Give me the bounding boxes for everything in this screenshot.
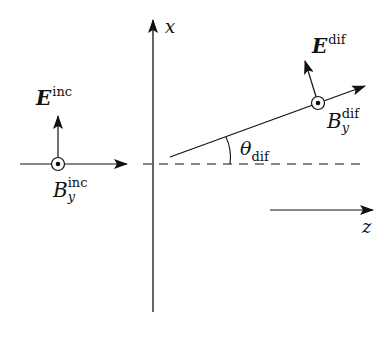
- x-axis-label: x: [165, 18, 175, 36]
- theta-subscript: dif: [251, 149, 268, 164]
- diffracted-e-label: Edif: [312, 36, 346, 56]
- incident-b-symbol: B: [53, 178, 68, 202]
- diffracted-b-label: Bdify: [327, 111, 364, 131]
- diffracted-b-symbol: B: [327, 109, 342, 133]
- diffracted-e-symbol: E: [312, 34, 327, 58]
- incident-e-superscript: inc: [52, 84, 72, 99]
- incident-b-subscript: y: [68, 190, 75, 203]
- incident-e-label: Einc: [36, 88, 72, 108]
- incident-b-superscript: inc: [68, 176, 88, 189]
- theta-symbol: θ: [240, 137, 251, 159]
- z-axis-label: z: [362, 218, 371, 236]
- theta-angle-arc: [226, 137, 231, 164]
- diffracted-b-subscript: y: [342, 121, 349, 134]
- diffracted-b-superscript: dif: [342, 107, 359, 120]
- diffracted-e-superscript: dif: [328, 32, 345, 47]
- incident-b-label: Bincy: [53, 180, 90, 200]
- theta-dif-label: θdif: [240, 139, 269, 158]
- incident-e-symbol: E: [36, 86, 51, 110]
